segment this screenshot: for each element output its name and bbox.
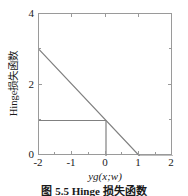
xtick-neg2 [38, 151, 39, 155]
xtick-label-neg2: -2 [28, 157, 48, 168]
xtick-label-2: 2 [161, 157, 181, 168]
xtick-neg1p5 [54, 152, 55, 155]
plot-canvas [39, 14, 173, 156]
xtick-top-1 [138, 13, 139, 17]
ytick-right-4 [168, 13, 172, 14]
xtick-label-0: 0 [95, 157, 115, 168]
ytick-4 [38, 13, 42, 14]
xtick-neg0p5 [88, 152, 89, 155]
xtick-label-neg1: -1 [61, 157, 81, 168]
xtick-2 [171, 151, 172, 155]
x-axis-title: yg(x;w) [38, 170, 172, 182]
xtick-1 [138, 151, 139, 155]
xtick-label-1: 1 [128, 157, 148, 168]
ytick-right-1 [169, 119, 172, 120]
ytick-right-3 [169, 48, 172, 49]
xtick-neg1 [71, 151, 72, 155]
ytick-label-4: 4 [20, 8, 34, 19]
y-axis-title: Hinge损失函数 [8, 22, 19, 146]
ytick-label-2: 2 [20, 79, 34, 90]
xtick-top-0 [105, 13, 106, 17]
ytick-3 [38, 48, 41, 49]
xtick-0 [105, 151, 106, 155]
xtick-0p5 [121, 152, 122, 155]
figure-caption: 图 5.5 Hinge 损失函数 [0, 185, 188, 196]
ytick-right-2 [168, 84, 172, 85]
hinge-loss-figure: 4 2 0 -2 -1 0 1 2 yg(x;w) Hinge损失函数 图 5.… [0, 0, 188, 196]
ytick-1 [38, 119, 41, 120]
ytick-2 [38, 84, 42, 85]
xtick-1p5 [155, 152, 156, 155]
xtick-top-neg1 [71, 13, 72, 17]
plot-area [38, 13, 172, 155]
